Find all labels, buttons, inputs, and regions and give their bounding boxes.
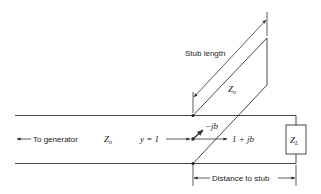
stub-impedance-label: Zo — [228, 84, 236, 95]
stub-admittance-label: −jb — [205, 121, 219, 131]
diagram-svg: ZL Zo Stub length To generator Zo y = 1 … — [0, 0, 321, 194]
stub-length-label: Stub length — [185, 49, 225, 58]
junction-dot-top — [191, 114, 194, 117]
to-generator-label: To generator — [33, 135, 78, 144]
distance-to-stub-label: Distance to stub — [212, 174, 270, 183]
line-admittance-label: 1 + jb — [232, 134, 255, 144]
stub-admittance-arrow — [194, 130, 203, 138]
junction-dot-bottom — [191, 162, 194, 165]
line-impedance-label: Zo — [104, 134, 112, 145]
admittance-y-label: y = 1 — [139, 134, 159, 144]
stub-matching-diagram: ZL Zo Stub length To generator Zo y = 1 … — [0, 0, 321, 194]
